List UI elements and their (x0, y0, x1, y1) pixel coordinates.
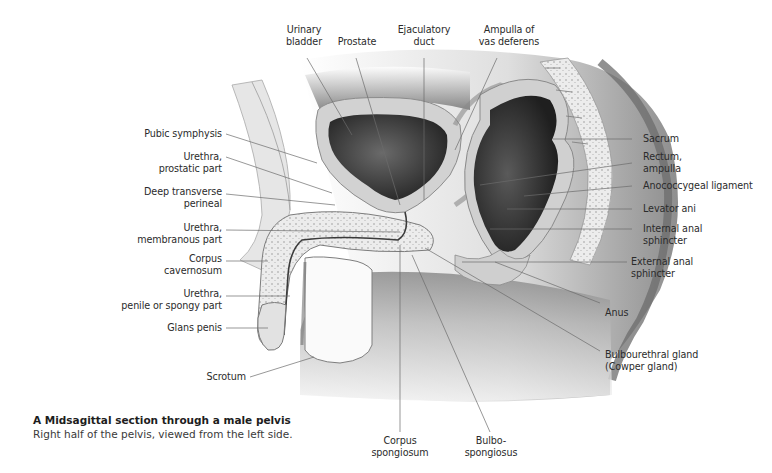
label-deep-transverse-perineal: Deep transverse perineal (110, 186, 222, 210)
label-ejaculatory-duct: Ejaculatory duct (393, 24, 455, 48)
label-corpus-cavernosum: Corpus cavernosum (110, 253, 222, 277)
label-scrotum: Scrotum (150, 371, 246, 383)
label-urethra-membranous: Urethra, membranous part (110, 222, 222, 246)
label-pubic-symphysis: Pubic symphysis (110, 128, 222, 140)
caption-title: A Midsagittal section through a male pel… (33, 413, 293, 427)
label-rectum-ampulla: Rectum, ampulla (643, 151, 682, 175)
label-ampulla-vas-deferens: Ampulla of vas deferens (476, 24, 542, 48)
label-bulbospongiosus: Bulbo- spongiosus (458, 435, 524, 459)
label-anococcygeal-ligament: Anococcygeal ligament (643, 180, 753, 192)
label-anus: Anus (605, 307, 628, 319)
label-bulbourethral-gland: Bulbourethral gland (Cowper gland) (605, 349, 698, 373)
label-urinary-bladder: Urinary bladder (279, 24, 329, 48)
label-urethra-penile: Urethra, penile or spongy part (90, 288, 222, 312)
figure-caption: A Midsagittal section through a male pel… (33, 413, 293, 441)
label-prostate: Prostate (335, 36, 379, 48)
label-levator-ani: Levator ani (643, 203, 696, 215)
caption-subtitle: Right half of the pelvis, viewed from th… (33, 427, 293, 441)
label-urethra-prostatic: Urethra, prostatic part (110, 151, 222, 175)
label-glans-penis: Glans penis (110, 322, 222, 334)
label-corpus-spongiosum: Corpus spongiosum (365, 435, 435, 459)
label-sacrum: Sacrum (643, 133, 679, 145)
label-internal-anal-sphincter: Internal anal sphincter (643, 223, 702, 247)
label-external-anal-sphincter: External anal sphincter (631, 256, 693, 280)
anatomy-figure: Urinary bladder Prostate Ejaculatory duc… (0, 0, 772, 473)
